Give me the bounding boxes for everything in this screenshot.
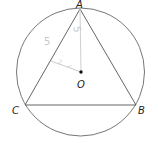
geometry-diagram: 5 5 2 ✓ A B C O: [0, 0, 158, 143]
side-ab: [80, 9, 136, 105]
perp-mark-1: 2: [57, 58, 63, 66]
label-c: C: [12, 105, 19, 116]
side-length-annotation: 5: [44, 36, 50, 47]
center-point-dot: [79, 70, 82, 73]
radius-annotation: 5: [71, 25, 83, 33]
label-a: A: [75, 0, 83, 10]
label-b: B: [138, 105, 145, 116]
label-o: O: [77, 79, 85, 90]
radius-ao: [80, 9, 81, 72]
side-ca: [25, 9, 80, 105]
